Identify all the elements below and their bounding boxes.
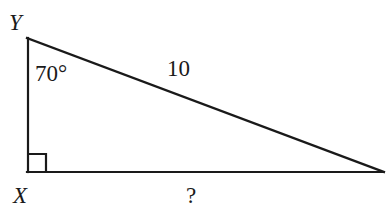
vertex-label-x: X [13,184,27,207]
right-angle-square-icon [28,154,46,172]
vertex-label-y: Y [9,11,22,34]
geometry-figure: Y X 70° 10 ? [0,0,388,216]
unknown-side-label: ? [186,184,196,207]
triangle-hypotenuse [27,38,384,172]
angle-label-70: 70° [35,62,67,85]
hypotenuse-length-label: 10 [167,57,190,80]
